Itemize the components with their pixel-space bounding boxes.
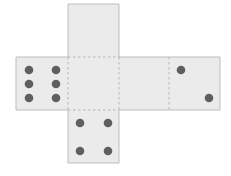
pip bbox=[76, 119, 85, 128]
pip bbox=[205, 94, 214, 103]
net-outline bbox=[16, 4, 220, 163]
pip bbox=[52, 94, 61, 103]
pip bbox=[52, 66, 61, 75]
pip bbox=[104, 147, 113, 156]
pip bbox=[52, 80, 61, 89]
pip bbox=[25, 80, 34, 89]
pip bbox=[25, 66, 34, 75]
die-net-diagram bbox=[0, 0, 231, 176]
pip bbox=[177, 66, 186, 75]
pip bbox=[104, 119, 113, 128]
pip bbox=[76, 147, 85, 156]
pip bbox=[25, 94, 34, 103]
